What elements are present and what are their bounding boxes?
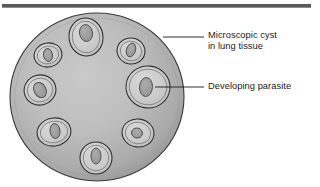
parasite-bottom xyxy=(80,142,112,174)
label-microscopic-cyst-line2: in lung tissue xyxy=(208,41,277,52)
label-developing-parasite-line1: Developing parasite xyxy=(208,81,291,92)
label-microscopic-cyst: Microscopic cyst in lung tissue xyxy=(208,30,277,53)
label-developing-parasite: Developing parasite xyxy=(208,81,291,92)
cyst-illustration xyxy=(0,0,320,187)
figure-diagram: Microscopic cyst in lung tissue Developi… xyxy=(0,0,320,187)
parasite-bottom-nucleus xyxy=(91,148,101,164)
label-microscopic-cyst-line1: Microscopic cyst xyxy=(208,30,277,41)
